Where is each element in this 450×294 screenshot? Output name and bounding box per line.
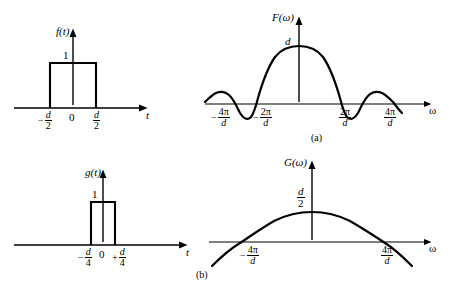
G-of-omega-axis-label: G(ω) <box>284 157 307 168</box>
f-origin-label: 0 <box>69 112 75 123</box>
G-peak-label: d2 <box>297 186 305 209</box>
F-of-omega-axis-label-text: F(ω) <box>272 11 294 23</box>
g-origin-label: 0 <box>99 249 105 260</box>
g-left-tick-sign: − <box>78 253 85 263</box>
f-right-tick-den: 2 <box>93 121 100 131</box>
F-tick1-den: d <box>260 118 272 128</box>
f-left-tick-den: 2 <box>45 121 52 131</box>
g-right-tick-label: +d4 <box>112 247 126 268</box>
g-right-tick-den: 4 <box>119 258 126 268</box>
caption-b: (b) <box>196 270 208 280</box>
F-tick-label-neg2pi: −2πd <box>253 107 272 128</box>
caption-a: (a) <box>311 133 322 143</box>
G-peak-den: 2 <box>297 198 305 209</box>
F-of-omega-axis-label: F(ω) <box>272 12 294 23</box>
F-tick1-sign: − <box>253 113 260 123</box>
g-left-tick-label: −d4 <box>78 247 92 268</box>
g-right-tick-sign: + <box>112 253 119 263</box>
f-right-tick-label: d2 <box>92 110 100 131</box>
G-tick1-den: d <box>381 256 393 266</box>
g-amplitude-label: 1 <box>92 189 98 200</box>
panel-F-of-omega <box>205 24 425 119</box>
F-tick-label-pos2pi: 2πd <box>338 107 351 128</box>
f-of-t-axis-label: f(t) <box>56 26 69 37</box>
F-tick3-den: d <box>384 118 396 128</box>
g-t-axis-label: t <box>186 247 189 258</box>
panel-f-of-t <box>14 36 140 108</box>
f-left-tick-label: −d2 <box>38 110 52 131</box>
F-tick0-den: d <box>218 118 230 128</box>
g-of-t-axis-label: g(t) <box>85 167 101 178</box>
g-left-tick-den: 4 <box>85 258 92 268</box>
f-amplitude-label: 1 <box>63 50 69 61</box>
G-of-omega-axis-label-text: G(ω) <box>284 156 307 168</box>
F-tick0-sign: − <box>211 113 218 123</box>
F-peak-label: d <box>285 36 291 47</box>
f-left-tick-sign: − <box>38 116 45 126</box>
F-sinc-curve <box>205 46 402 119</box>
F-tick-label-neg4pi: −4πd <box>211 107 230 128</box>
G-tick0-sign: − <box>240 251 247 261</box>
f-t-axis-label: t <box>146 110 149 121</box>
figure-page: f(t) 1 0 −d2 d2 t F(ω) d −4πd −2πd 2πd 4… <box>0 0 450 294</box>
F-tick-label-pos4pi: 4πd <box>383 107 396 128</box>
G-tick-label-pos4pi: 4πd <box>380 245 393 266</box>
F-tick2-den: d <box>339 118 351 128</box>
G-tick-label-neg4pi: −4πd <box>240 245 259 266</box>
F-omega-axis-label: ω <box>429 105 436 116</box>
G-omega-axis-label: ω <box>429 243 436 254</box>
G-tick0-den: d <box>247 256 259 266</box>
